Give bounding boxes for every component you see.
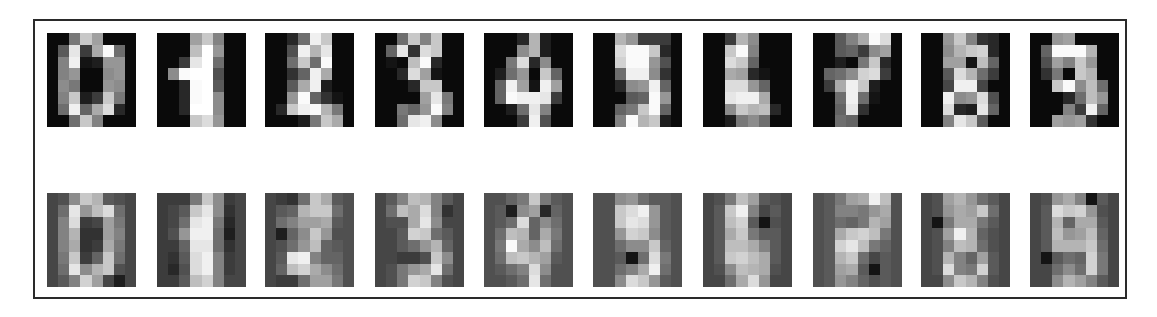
pixel [1075, 217, 1086, 229]
pixel [966, 45, 977, 57]
pixel [92, 252, 103, 264]
pixel [977, 205, 988, 217]
pixel [408, 33, 419, 45]
pixel [770, 275, 781, 287]
pixel [529, 80, 540, 92]
pixel [1097, 92, 1108, 104]
pixel [770, 205, 781, 217]
pixel [517, 205, 528, 217]
pixel [703, 217, 714, 229]
pixel [626, 275, 637, 287]
pixel [386, 92, 397, 104]
pixel [375, 57, 386, 69]
pixel [759, 252, 770, 264]
pixel [1052, 217, 1063, 229]
pixel [880, 57, 891, 69]
pixel [114, 115, 125, 127]
pixel [103, 193, 114, 205]
pixel [835, 45, 846, 57]
pixel [703, 193, 714, 205]
pixel [298, 115, 309, 127]
pixel [375, 264, 386, 276]
pixel [453, 80, 464, 92]
pixel [604, 228, 615, 240]
pixel [375, 115, 386, 127]
pixel [114, 92, 125, 104]
pixel [202, 252, 213, 264]
pixel [813, 115, 824, 127]
pixel [770, 240, 781, 252]
pixel [748, 92, 759, 104]
pixel [626, 57, 637, 69]
pixel [551, 80, 562, 92]
pixel [626, 33, 637, 45]
pixel [58, 92, 69, 104]
pixel [921, 240, 932, 252]
pixel [1063, 264, 1074, 276]
pixel [954, 80, 965, 92]
pixel [343, 217, 354, 229]
pixel [506, 264, 517, 276]
pixel [408, 228, 419, 240]
pixel [638, 68, 649, 80]
pixel [114, 45, 125, 57]
pixel [276, 205, 287, 217]
pixel [408, 45, 419, 57]
pixel [431, 33, 442, 45]
pixel [484, 104, 495, 116]
pixel [287, 45, 298, 57]
pixel [540, 264, 551, 276]
pixel [202, 57, 213, 69]
pixel [604, 217, 615, 229]
pixel [824, 92, 835, 104]
pixel [213, 92, 224, 104]
pixel [202, 80, 213, 92]
pixel [540, 240, 551, 252]
pixel [813, 240, 824, 252]
pixel [224, 205, 235, 217]
pixel [999, 80, 1010, 92]
pixel [397, 104, 408, 116]
pixel [932, 240, 943, 252]
pixel [824, 252, 835, 264]
pixel [1041, 115, 1052, 127]
pixel [1030, 252, 1041, 264]
pixel [846, 193, 857, 205]
original-digit-2 [265, 33, 354, 127]
pixel [660, 57, 671, 69]
pixel [1030, 57, 1041, 69]
pixel [932, 264, 943, 276]
pixel [484, 252, 495, 264]
pixel [1086, 57, 1097, 69]
pixel [988, 115, 999, 127]
pixel [190, 115, 201, 127]
pixel [714, 104, 725, 116]
pixel [858, 45, 869, 57]
pixel [190, 57, 201, 69]
reconstructed-digit-5 [593, 193, 682, 287]
pixel [999, 33, 1010, 45]
pixel [943, 115, 954, 127]
pixel [453, 205, 464, 217]
pixel [420, 252, 431, 264]
pixel [506, 252, 517, 264]
pixel [660, 80, 671, 92]
pixel [310, 228, 321, 240]
pixel [47, 104, 58, 116]
pixel [213, 68, 224, 80]
pixel [604, 104, 615, 116]
pixel [759, 80, 770, 92]
pixel [442, 68, 453, 80]
pixel [660, 252, 671, 264]
pixel [375, 193, 386, 205]
pixel [1041, 275, 1052, 287]
pixel [58, 205, 69, 217]
pixel [190, 228, 201, 240]
pixel [781, 115, 792, 127]
pixel [276, 252, 287, 264]
pixel [1030, 68, 1041, 80]
pixel [999, 275, 1010, 287]
pixel [703, 92, 714, 104]
pixel [179, 240, 190, 252]
pixel [880, 104, 891, 116]
